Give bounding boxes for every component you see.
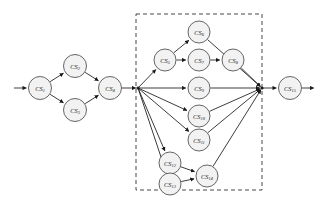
edge-cs3-to-cs4 — [85, 95, 98, 103]
edge-cs2-to-cs4 — [85, 72, 98, 80]
node-cs12[interactable]: CS12 — [159, 152, 181, 174]
edge-cs10-to-junction — [210, 89, 260, 111]
node-cs6[interactable]: CS6 — [188, 21, 210, 43]
edge-junction-to-cs12 — [138, 88, 165, 151]
node-cs3[interactable]: CS3 — [64, 99, 87, 122]
edge-cs1-to-cs2 — [50, 73, 63, 81]
edge-cs11-to-junction — [208, 89, 260, 132]
node-cs2[interactable]: CS2 — [64, 55, 87, 78]
node-cs10[interactable]: CS10 — [188, 105, 210, 127]
node-cs4[interactable]: CS4 — [99, 77, 122, 100]
edge-cs1-to-cs3 — [50, 94, 63, 102]
node-layer: CS1CS2CS3CS4CS5CS6CS7CS8CS9CS10CS11CS12C… — [29, 21, 302, 195]
node-cs9[interactable]: CS9 — [188, 77, 210, 99]
edge-cs14-to-junction — [213, 90, 261, 166]
node-cs8[interactable]: CS8 — [222, 49, 244, 71]
node-cs1[interactable]: CS1 — [29, 77, 52, 100]
edge-junction-to-cs10 — [138, 88, 187, 110]
edge-junction-to-cs5 — [138, 70, 156, 88]
diagram-canvas: CS1CS2CS3CS4CS5CS6CS7CS8CS9CS10CS11CS12C… — [0, 0, 322, 214]
node-cs11[interactable]: CS11 — [188, 129, 210, 151]
node-cs5[interactable]: CS5 — [154, 49, 176, 71]
merge-junction — [260, 86, 263, 89]
edge-cs12-to-cs14 — [181, 167, 195, 172]
workflow-graph: CS1CS2CS3CS4CS5CS6CS7CS8CS9CS10CS11CS12C… — [0, 0, 322, 214]
edge-cs5-to-cs6 — [174, 40, 189, 52]
node-cs7[interactable]: CS7 — [188, 49, 210, 71]
split-junction — [136, 86, 139, 89]
node-cs15[interactable]: CS15 — [279, 77, 302, 100]
edge-cs8-to-junction — [241, 68, 260, 86]
node-cs14[interactable]: CS14 — [196, 165, 218, 187]
node-cs13[interactable]: CS13 — [159, 173, 181, 195]
edge-cs13-to-cs14 — [181, 179, 194, 182]
